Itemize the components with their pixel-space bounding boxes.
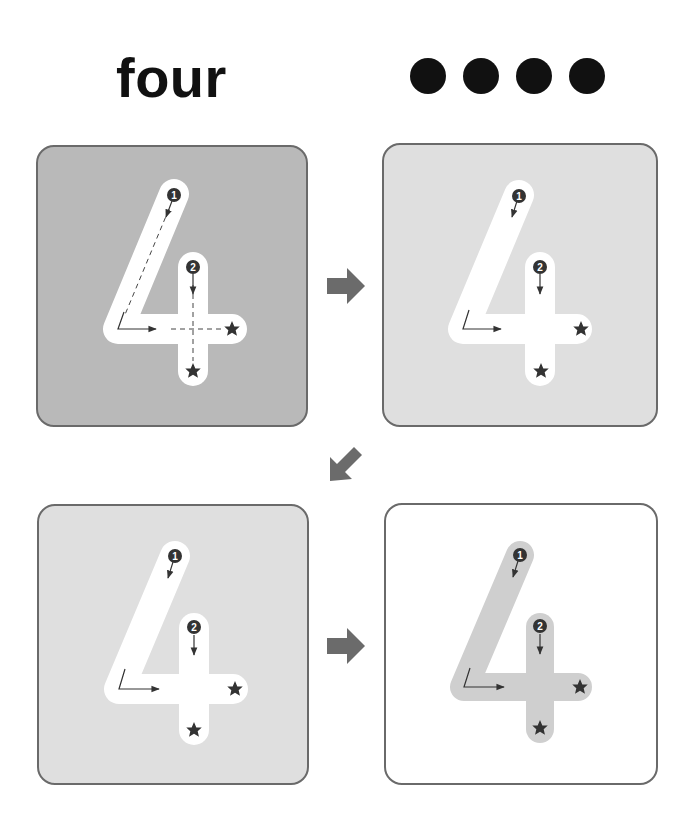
step-4-panel: 1 2 [384,503,658,785]
svg-text:2: 2 [190,262,196,273]
count-dots [410,58,605,94]
step-1-panel: 1 2 [36,145,308,427]
arrow-right-icon [327,628,367,664]
step-3-panel: 1 2 [37,504,309,785]
count-dot-icon [516,58,552,94]
svg-text:1: 1 [516,191,522,202]
count-dot-icon [569,58,605,94]
count-dot-icon [410,58,446,94]
svg-text:2: 2 [537,262,543,273]
svg-text:2: 2 [537,621,543,632]
digit-four-trace: 1 2 [384,145,658,427]
svg-text:1: 1 [517,550,523,561]
number-word: four [116,40,227,116]
svg-text:1: 1 [171,190,177,201]
svg-text:1: 1 [172,551,178,562]
count-dot-icon [463,58,499,94]
digit-four-filled: 1 2 [386,505,658,785]
digit-four-trace-dashed: 1 2 [38,147,308,427]
arrow-right-icon [327,268,367,304]
svg-text:2: 2 [191,622,197,633]
step-2-panel: 1 2 [382,143,658,427]
digit-four-trace: 1 2 [39,506,309,785]
arrow-down-left-icon [330,447,364,481]
